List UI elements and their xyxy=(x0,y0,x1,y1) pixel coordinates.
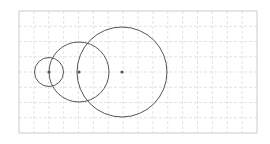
center-point-medium xyxy=(77,70,80,73)
diagram-canvas xyxy=(0,0,270,144)
circles-diagram xyxy=(0,0,270,144)
grid xyxy=(19,11,257,133)
center-point-large xyxy=(120,70,123,73)
